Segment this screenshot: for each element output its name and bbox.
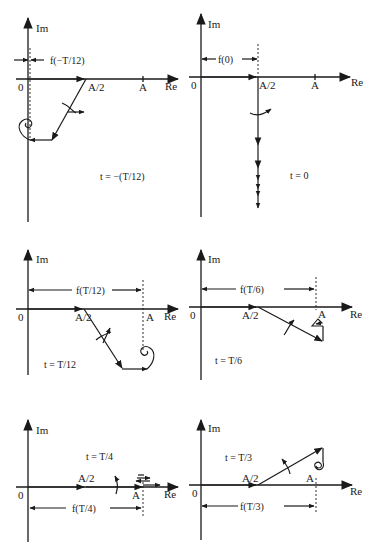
half-tick-label: A/2	[259, 79, 276, 91]
panel-t-T3: Im Re 0 A/2 A f(T/3) t = T/3	[189, 420, 362, 540]
re-label: Re	[164, 488, 176, 500]
re-label: Re	[351, 76, 363, 88]
rotation-arrow	[282, 459, 290, 474]
a-tick-label: A	[318, 308, 326, 320]
rotation-arrow	[115, 476, 117, 494]
im-label: Im	[36, 424, 49, 436]
time-label: t = T/4	[86, 451, 113, 462]
measure-label: f(T/6)	[240, 284, 264, 296]
measure-label: f(T/12)	[76, 285, 105, 297]
im-label: Im	[36, 253, 49, 265]
im-label: Im	[208, 422, 221, 434]
a-tick-label: A	[311, 79, 319, 91]
re-label: Re	[350, 308, 362, 320]
panel-t-0: Im Re 0 A/2 A f(0) t = 0	[189, 14, 363, 217]
re-label: Re	[350, 485, 362, 497]
half-tick-label: A/2	[242, 309, 259, 321]
origin-label: 0	[190, 309, 196, 321]
panel-t-T6: Im Re 0 A/2 A f(T/6) t = T/6	[189, 250, 362, 380]
a-tick-label: A	[146, 311, 154, 323]
rotation-arrow	[250, 109, 271, 115]
re-label: Re	[164, 310, 176, 322]
time-label: t = T/3	[225, 452, 252, 463]
time-label: t = 0	[290, 170, 308, 181]
origin-label: 0	[191, 79, 197, 91]
time-label: t = T/6	[215, 355, 242, 366]
measure-label: f(−T/12)	[50, 55, 85, 67]
measure-label: f(T/3)	[240, 501, 264, 513]
a-tick-label: A	[132, 489, 140, 501]
im-label: Im	[208, 253, 221, 265]
measure-label: f(0)	[218, 54, 233, 66]
measure-label: f(T/4)	[72, 503, 96, 515]
origin-label: 0	[18, 311, 24, 323]
im-label: Im	[208, 18, 221, 30]
origin-label: 0	[18, 489, 24, 501]
a-tick-label: A	[139, 81, 147, 93]
panel-t-T12: Im Re 0 A/2 A f(T/12) t = T/12	[16, 250, 178, 375]
panel-t-T4: Im Re 0 A/2 A f(T/4) t = T/4	[16, 420, 178, 542]
time-label: t = −(T/12)	[100, 171, 145, 183]
a-tick-label: A	[306, 472, 314, 484]
origin-label: 0	[192, 487, 198, 499]
im-label: Im	[36, 22, 49, 34]
panel-t-minus-T12: Im Re 0 A/2 A f(−T/12) t = −(T/12)	[14, 18, 178, 222]
phasor-figure: Im Re 0 A/2 A f(−T/12) t = −(T/12) Im Re…	[0, 0, 372, 548]
re-label: Re	[165, 80, 177, 92]
half-tick-label: A/2	[78, 472, 95, 484]
time-label: t = T/12	[44, 359, 76, 370]
half-tick-label: A/2	[88, 81, 105, 93]
half-tick-label: A/2	[242, 472, 259, 484]
origin-label: 0	[18, 81, 24, 93]
